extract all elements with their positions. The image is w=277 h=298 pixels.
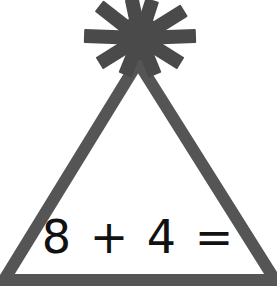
equation-text: 8 + 4 =	[0, 214, 277, 260]
